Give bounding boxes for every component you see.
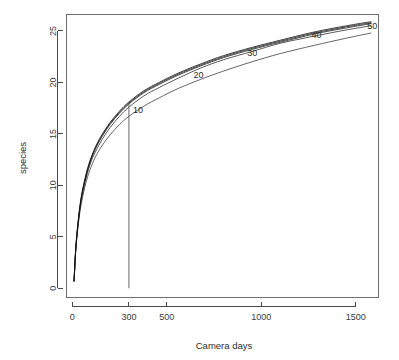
- x-axis-tick-label: 300: [121, 312, 136, 322]
- species-accumulation-plot: 0510152025 030050010001500 1020304050 Ca…: [0, 0, 399, 360]
- curve-annotation-label: 50: [367, 21, 377, 31]
- y-axis-tick-label: 10: [49, 180, 59, 190]
- curve-annotation-label: 20: [193, 70, 203, 80]
- y-axis-tick-label: 25: [49, 26, 59, 36]
- curve-annotation-label: 40: [312, 30, 322, 40]
- curve-annotation-label: 10: [133, 105, 143, 115]
- x-axis-tick-label: 1000: [251, 312, 271, 322]
- x-axis-tick-label: 1500: [346, 312, 366, 322]
- x-axis-tick-label: 500: [159, 312, 174, 322]
- y-axis-tick-label: 20: [49, 77, 59, 87]
- y-axis-title: species: [17, 142, 28, 174]
- x-axis-tick-label: 0: [70, 312, 75, 322]
- curve-annotation-label: 30: [247, 48, 257, 58]
- y-axis-tick-label: 15: [49, 129, 59, 139]
- x-axis-title: Camera days: [196, 340, 253, 351]
- chart-figure: 0510152025 030050010001500 1020304050 Ca…: [0, 0, 399, 360]
- y-axis-tick-label: 0: [49, 286, 59, 291]
- y-axis-tick-label: 5: [49, 234, 59, 239]
